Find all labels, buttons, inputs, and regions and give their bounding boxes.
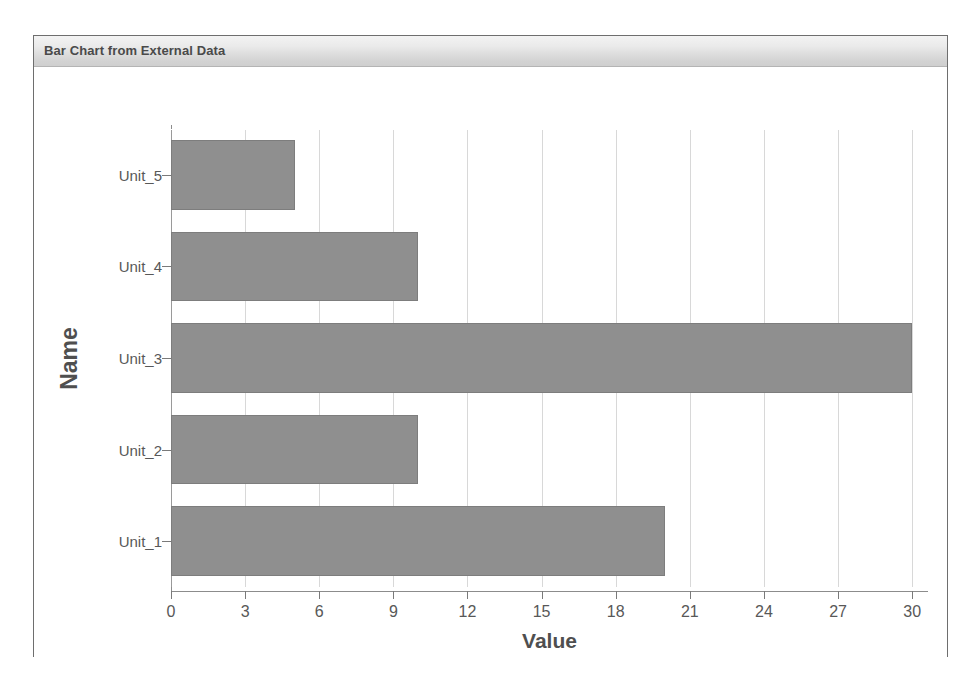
x-tick-6 <box>319 591 320 599</box>
y-tick-Unit_4 <box>162 266 171 267</box>
y-tick-label-Unit_3: Unit_3 <box>119 350 162 367</box>
y-tick-label-Unit_2: Unit_2 <box>119 441 162 458</box>
y-tick-label-Unit_4: Unit_4 <box>119 258 162 275</box>
y-tick-Unit_5 <box>162 175 171 176</box>
bar-Unit_1 <box>171 506 665 576</box>
bar-Unit_5 <box>171 140 295 210</box>
x-tick-label-18: 18 <box>607 603 625 621</box>
y-tick-Unit_2 <box>162 450 171 451</box>
x-axis-line <box>171 591 928 592</box>
x-tick-label-3: 3 <box>241 603 250 621</box>
chart-body: Name Unit_1Unit_2Unit_3Unit_4Unit_5 0369… <box>34 67 947 657</box>
y-tick-label-Unit_1: Unit_1 <box>119 533 162 550</box>
x-axis-title: Value <box>171 629 928 653</box>
x-tick-label-9: 9 <box>389 603 398 621</box>
x-tick-12 <box>467 591 468 599</box>
y-tick-Unit_3 <box>162 358 171 359</box>
bar-Unit_2 <box>171 415 418 485</box>
x-axis-title-label: Value <box>522 629 577 652</box>
x-tick-24 <box>764 591 765 599</box>
x-tick-label-21: 21 <box>681 603 699 621</box>
panel-title: Bar Chart from External Data <box>44 43 225 58</box>
x-tick-label-12: 12 <box>459 603 477 621</box>
chart-panel: Bar Chart from External Data Name Unit_1… <box>33 35 948 657</box>
x-tick-15 <box>542 591 543 599</box>
x-tick-label-6: 6 <box>315 603 324 621</box>
y-axis-tick-labels: Unit_1Unit_2Unit_3Unit_4Unit_5 <box>34 129 162 587</box>
x-tick-30 <box>912 591 913 599</box>
plot-area <box>171 129 927 587</box>
x-tick-label-30: 30 <box>903 603 921 621</box>
x-tick-9 <box>393 591 394 599</box>
x-tick-18 <box>616 591 617 599</box>
x-tick-0 <box>171 591 172 599</box>
x-tick-21 <box>690 591 691 599</box>
panel-titlebar: Bar Chart from External Data <box>34 36 947 67</box>
x-tick-label-15: 15 <box>533 603 551 621</box>
bar-Unit_4 <box>171 232 418 302</box>
x-tick-27 <box>838 591 839 599</box>
gridline-x-30 <box>912 129 913 587</box>
x-tick-label-27: 27 <box>829 603 847 621</box>
x-tick-label-0: 0 <box>167 603 176 621</box>
y-tick-label-Unit_5: Unit_5 <box>119 166 162 183</box>
plot-top-edge <box>171 129 927 130</box>
x-tick-3 <box>245 591 246 599</box>
bar-Unit_3 <box>171 323 912 393</box>
x-tick-label-24: 24 <box>755 603 773 621</box>
y-tick-Unit_1 <box>162 541 171 542</box>
